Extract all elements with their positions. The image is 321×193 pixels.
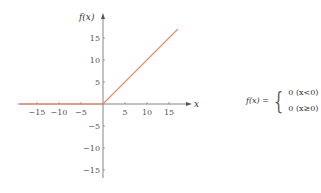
y-tick-label: 10 [90,56,100,65]
y-tick-label: −15 [83,166,100,175]
formula-case-nonnegative: 0 (x≥0) [288,104,318,113]
x-tick-label: −5 [75,108,87,117]
formula-lhs: f(x) = [246,96,269,105]
y-tick-label: 15 [90,34,100,43]
x-tick-label: 10 [142,108,152,117]
formula-case-negative: 0 (x<0) [288,88,318,97]
y-tick-label: −10 [83,144,100,153]
relu-plot: −15−10−551015 15105−5−10−15 x f(x) [0,0,210,193]
y-tick-label: 5 [95,78,100,87]
y-axis-label: f(x) [78,12,95,22]
x-tick-label: −15 [29,108,46,117]
x-tick-label: 5 [122,108,127,117]
y-axis-arrow-icon [101,13,105,19]
y-tick-label: −5 [88,122,100,131]
brace-icon: { [274,89,283,113]
formula-cases: 0 (x<0) 0 (x≥0) [288,88,318,113]
x-tick-label: −10 [51,108,68,117]
relu-formula: f(x) = { 0 (x<0) 0 (x≥0) [246,88,318,113]
x-tick-label: 15 [164,108,174,117]
x-axis-arrow-icon [186,102,192,106]
x-axis-label: x [194,99,199,109]
